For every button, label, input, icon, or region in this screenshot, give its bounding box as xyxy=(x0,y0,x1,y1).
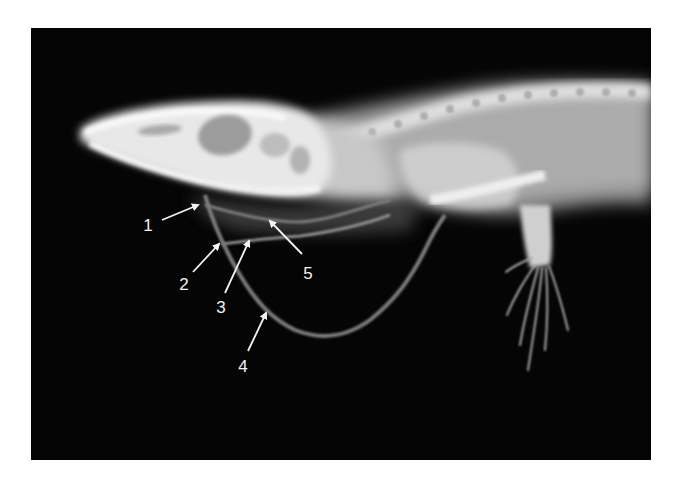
xray-image xyxy=(31,28,651,460)
annotation-label-2: 2 xyxy=(179,276,188,293)
annotation-label-3: 3 xyxy=(216,299,225,316)
annotation-label-1: 1 xyxy=(143,217,152,234)
xray-figure: 1 2 3 4 5 xyxy=(31,28,651,460)
annotation-label-5: 5 xyxy=(303,265,312,282)
annotation-label-4: 4 xyxy=(238,358,247,375)
